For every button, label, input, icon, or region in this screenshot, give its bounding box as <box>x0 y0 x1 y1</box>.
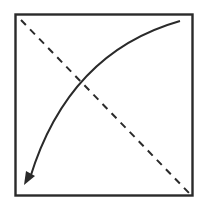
diagram-canvas <box>0 0 205 210</box>
curved-arrow <box>30 21 180 178</box>
arrowhead-icon <box>24 171 35 185</box>
diagonal-dashed-line <box>21 20 190 194</box>
